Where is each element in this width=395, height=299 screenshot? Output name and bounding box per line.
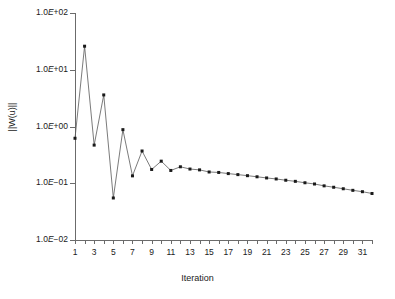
data-point-marker [265, 176, 268, 179]
x-axis-tick [276, 240, 277, 244]
x-axis-tick-label: 19 [239, 247, 255, 257]
data-point-marker [332, 186, 335, 189]
x-axis-tick-label: 3 [86, 247, 102, 257]
data-point-marker [246, 174, 249, 177]
data-point-marker [93, 144, 96, 147]
x-axis-tick [315, 240, 316, 244]
x-axis-tick-label: 7 [124, 247, 140, 257]
data-point-marker [208, 170, 211, 173]
x-axis-tick-label: 13 [182, 247, 198, 257]
x-axis-tick-label: 31 [354, 247, 370, 257]
y-axis-tick [70, 127, 75, 128]
x-axis-tick [353, 240, 354, 244]
x-axis-tick [305, 240, 306, 244]
x-axis-tick-label: 5 [105, 247, 121, 257]
x-axis-tick [286, 240, 287, 244]
x-axis-tick-label: 15 [201, 247, 217, 257]
y-axis-tick-label: 1.0E+02 [6, 8, 68, 17]
x-axis-tick [104, 240, 105, 244]
data-point-marker [169, 169, 172, 172]
x-axis-tick [190, 240, 191, 244]
x-axis-tick [257, 240, 258, 244]
x-axis-tick [161, 240, 162, 244]
data-point-marker [160, 160, 163, 163]
data-point-marker [131, 174, 134, 177]
x-axis-tick [343, 240, 344, 244]
series-line-wu [75, 46, 372, 198]
data-point-marker [141, 150, 144, 153]
y-axis-title: ||W(u)|| [7, 67, 17, 167]
x-axis-tick [94, 240, 95, 244]
data-point-marker [236, 173, 239, 176]
x-axis-tick [295, 240, 296, 244]
data-point-marker [112, 196, 115, 199]
data-point-marker [227, 172, 230, 175]
y-axis-tick [70, 70, 75, 71]
data-point-marker [188, 168, 191, 171]
data-point-marker [294, 180, 297, 183]
data-point-marker [198, 168, 201, 171]
data-point-marker [323, 184, 326, 187]
data-point-marker [351, 189, 354, 192]
y-axis-tick [70, 183, 75, 184]
x-axis-tick [180, 240, 181, 244]
x-axis-tick-label: 27 [316, 247, 332, 257]
x-axis-tick [85, 240, 86, 244]
x-axis-title: Iteration [0, 273, 395, 283]
x-axis-line [75, 240, 373, 241]
x-axis-tick-label: 21 [259, 247, 275, 257]
series-markers [74, 45, 374, 200]
data-point-marker [256, 175, 259, 178]
data-point-marker [83, 45, 86, 48]
y-axis-tick-label: 1.0E−02 [6, 235, 68, 244]
x-axis-tick [238, 240, 239, 244]
x-axis-tick [123, 240, 124, 244]
x-axis-tick [171, 240, 172, 244]
x-axis-tick [362, 240, 363, 244]
chart-container: 1.0E+021.0E+011.0E+001.0E−011.0E−02 1357… [0, 0, 395, 299]
x-axis-tick [209, 240, 210, 244]
y-axis-tick [70, 13, 75, 14]
data-point-marker [342, 187, 345, 190]
x-axis-tick-label: 11 [163, 247, 179, 257]
data-point-marker [275, 177, 278, 180]
data-point-marker [303, 181, 306, 184]
x-axis-tick [247, 240, 248, 244]
x-axis-tick [219, 240, 220, 244]
x-axis-tick-label: 17 [220, 247, 236, 257]
data-point-marker [371, 192, 374, 195]
data-point-marker [217, 171, 220, 174]
x-axis-tick-label: 9 [144, 247, 160, 257]
x-axis-tick [372, 240, 373, 244]
data-point-marker [102, 93, 105, 96]
x-axis-tick [267, 240, 268, 244]
x-axis-tick [152, 240, 153, 244]
x-axis-tick [334, 240, 335, 244]
data-point-marker [361, 190, 364, 193]
x-axis-tick-label: 23 [278, 247, 294, 257]
x-axis-tick-label: 25 [297, 247, 313, 257]
data-point-marker [121, 128, 124, 131]
data-point-marker [179, 165, 182, 168]
x-axis-tick [132, 240, 133, 244]
x-axis-tick [228, 240, 229, 244]
data-point-marker [284, 179, 287, 182]
y-axis-line [75, 13, 76, 241]
x-axis-tick [200, 240, 201, 244]
y-axis-tick-label: 1.0E−01 [6, 178, 68, 187]
data-point-marker [313, 183, 316, 186]
x-axis-tick-label: 29 [335, 247, 351, 257]
x-axis-tick [142, 240, 143, 244]
x-axis-tick-label: 1 [67, 247, 83, 257]
x-axis-tick [75, 240, 76, 244]
x-axis-tick [324, 240, 325, 244]
x-axis-tick [113, 240, 114, 244]
data-point-marker [150, 168, 153, 171]
